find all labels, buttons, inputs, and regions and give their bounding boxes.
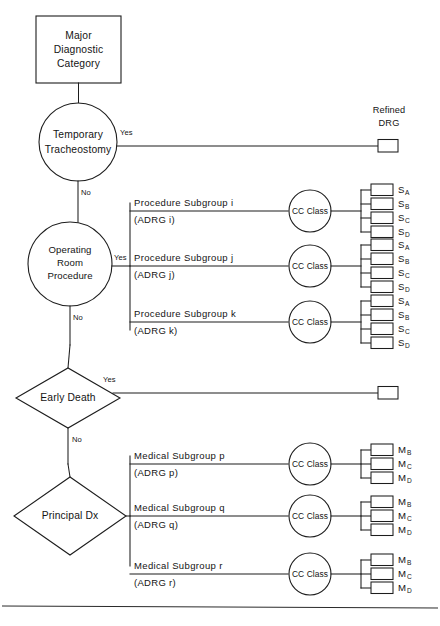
subgroup-i-title: Procedure Subgroup i: [134, 197, 233, 208]
outcome-label-q-d: M: [398, 524, 406, 535]
mdc-line-1: Major: [65, 30, 92, 41]
outcome-label-p-c: M: [398, 458, 406, 469]
subgroup-q-title: Medical Subgroup q: [134, 502, 225, 513]
outcome-box-j-a: [371, 239, 393, 251]
branch-label-tracheostomy-no: No: [81, 188, 91, 197]
outcome-box-r-d: [371, 582, 393, 594]
outcome-sub-i-a: A: [405, 189, 410, 196]
outcome-box-r-c: [371, 568, 393, 580]
outcome-box-p-c: [371, 458, 393, 470]
outcome-sub-p-b: B: [407, 449, 412, 456]
outcome-label-q-b: M: [398, 496, 406, 507]
connector-or-no-to-earlydeath: [68, 345, 70, 368]
outcome-sub-q-b: B: [407, 501, 412, 508]
subgroup-i-adrg: (ADRG i): [134, 214, 175, 225]
terminal-box-tracheostomy: [378, 140, 398, 153]
early-death-label: Early Death: [40, 392, 96, 403]
outcome-sub-j-b: B: [405, 258, 410, 265]
branch-label-or-no: No: [73, 313, 83, 322]
or-procedure-line-1: Operating: [48, 244, 91, 255]
outcome-label-j-c: S: [398, 267, 405, 278]
medical-subgroup-r: Medical Subgroup r (ADRG r) CC Class M B…: [130, 553, 412, 595]
outcome-label-q-c: M: [398, 510, 406, 521]
terminal-box-early-death: [378, 387, 398, 400]
outcome-sub-k-b: B: [405, 314, 410, 321]
tracheostomy-line-2: Tracheostomy: [45, 144, 112, 155]
outcome-box-j-c: [371, 267, 393, 279]
outcome-label-j-b: S: [398, 253, 405, 264]
outcome-box-p-d: [371, 472, 393, 484]
outcome-box-r-b: [371, 554, 393, 566]
refined-drg-line-1: Refined: [373, 105, 406, 115]
outcome-label-k-d: S: [398, 337, 405, 348]
outcome-label-k-b: S: [398, 309, 405, 320]
mdc-line-3: Category: [57, 58, 101, 69]
outcome-sub-p-d: D: [407, 477, 412, 484]
cc-class-label-medical-r: CC Class: [292, 569, 328, 579]
outcome-sub-r-d: D: [407, 587, 412, 594]
subgroup-r-adrg: (ADRG r): [134, 577, 176, 588]
outcome-label-i-c: S: [398, 212, 405, 223]
outcome-sub-k-d: D: [405, 342, 410, 349]
outcome-box-q-c: [371, 510, 393, 522]
node-temporary-tracheostomy[interactable]: Temporary Tracheostomy: [39, 103, 117, 181]
outcome-sub-j-d: D: [405, 286, 410, 293]
outcome-box-i-a: [371, 184, 393, 196]
cc-class-label-surgical-i: CC Class: [292, 206, 328, 216]
refined-drg-line-2: DRG: [379, 118, 400, 128]
outcome-label-r-c: M: [398, 568, 406, 579]
surgical-subgroup-j: Procedure Subgroup j (ADRG j) CC Class S…: [130, 239, 410, 294]
outcome-label-k-a: S: [398, 295, 405, 306]
subgroup-q-adrg: (ADRG q): [134, 519, 178, 530]
outcome-box-j-d: [371, 281, 393, 293]
node-major-diagnostic-category: Major Diagnostic Category: [36, 16, 121, 83]
subgroup-p-adrg: (ADRG p): [134, 467, 178, 478]
outcome-sub-p-c: C: [407, 463, 412, 470]
branch-label-earlydeath-no: No: [72, 435, 82, 444]
outcome-box-k-d: [371, 337, 393, 349]
outcome-label-j-d: S: [398, 281, 405, 292]
outcome-sub-q-d: D: [407, 529, 412, 536]
subgroup-j-title: Procedure Subgroup j: [134, 252, 233, 263]
or-procedure-line-3: Procedure: [47, 270, 92, 281]
outcome-box-i-b: [371, 198, 393, 210]
outcome-label-i-d: S: [398, 226, 405, 237]
outcome-box-q-b: [371, 496, 393, 508]
outcome-sub-i-d: D: [405, 231, 410, 238]
flowchart-canvas: Major Diagnostic Category Refined DRG Te…: [0, 0, 440, 626]
surgical-subgroup-k: Procedure Subgroup k (ADRG k) CC Class S…: [130, 295, 410, 350]
outcome-label-i-a: S: [398, 184, 405, 195]
outcome-box-i-c: [371, 212, 393, 224]
medical-subgroup-q: Medical Subgroup q (ADRG q) CC Class M B…: [130, 495, 412, 537]
connector-earlydeath-to-principaldx: [68, 464, 70, 477]
outcome-sub-j-c: C: [405, 272, 410, 279]
outcome-box-k-b: [371, 309, 393, 321]
principal-dx-label: Principal Dx: [42, 510, 99, 521]
node-principal-dx[interactable]: Principal Dx: [14, 477, 126, 555]
column-header-refined-drg: Refined DRG: [373, 105, 406, 128]
cc-class-label-surgical-k: CC Class: [292, 317, 328, 327]
outcome-label-r-b: M: [398, 554, 406, 565]
outcome-sub-k-a: A: [405, 300, 410, 307]
subgroup-k-adrg: (ADRG k): [134, 325, 178, 336]
mdc-line-2: Diagnostic: [54, 44, 104, 55]
outcome-label-p-d: M: [398, 472, 406, 483]
node-operating-room-procedure[interactable]: Operating Room Procedure: [28, 222, 112, 306]
outcome-label-r-d: M: [398, 582, 406, 593]
outcome-label-j-a: S: [398, 239, 405, 250]
outcome-sub-q-c: C: [407, 515, 412, 522]
subgroup-k-title: Procedure Subgroup k: [134, 308, 236, 319]
branch-label-earlydeath-yes: Yes: [103, 375, 116, 384]
outcome-box-j-b: [371, 253, 393, 265]
outcome-sub-i-c: C: [405, 217, 410, 224]
or-procedure-line-2: Room: [57, 257, 83, 268]
outcome-box-q-d: [371, 524, 393, 536]
outcome-label-i-b: S: [398, 198, 405, 209]
branch-label-or-yes: Yes: [114, 253, 127, 262]
outcome-sub-i-b: B: [405, 203, 410, 210]
cc-class-label-medical-q: CC Class: [292, 511, 328, 521]
outcome-box-k-c: [371, 323, 393, 335]
cc-class-label-medical-p: CC Class: [292, 459, 328, 469]
outcome-box-k-a: [371, 295, 393, 307]
outcome-label-k-c: S: [398, 323, 405, 334]
